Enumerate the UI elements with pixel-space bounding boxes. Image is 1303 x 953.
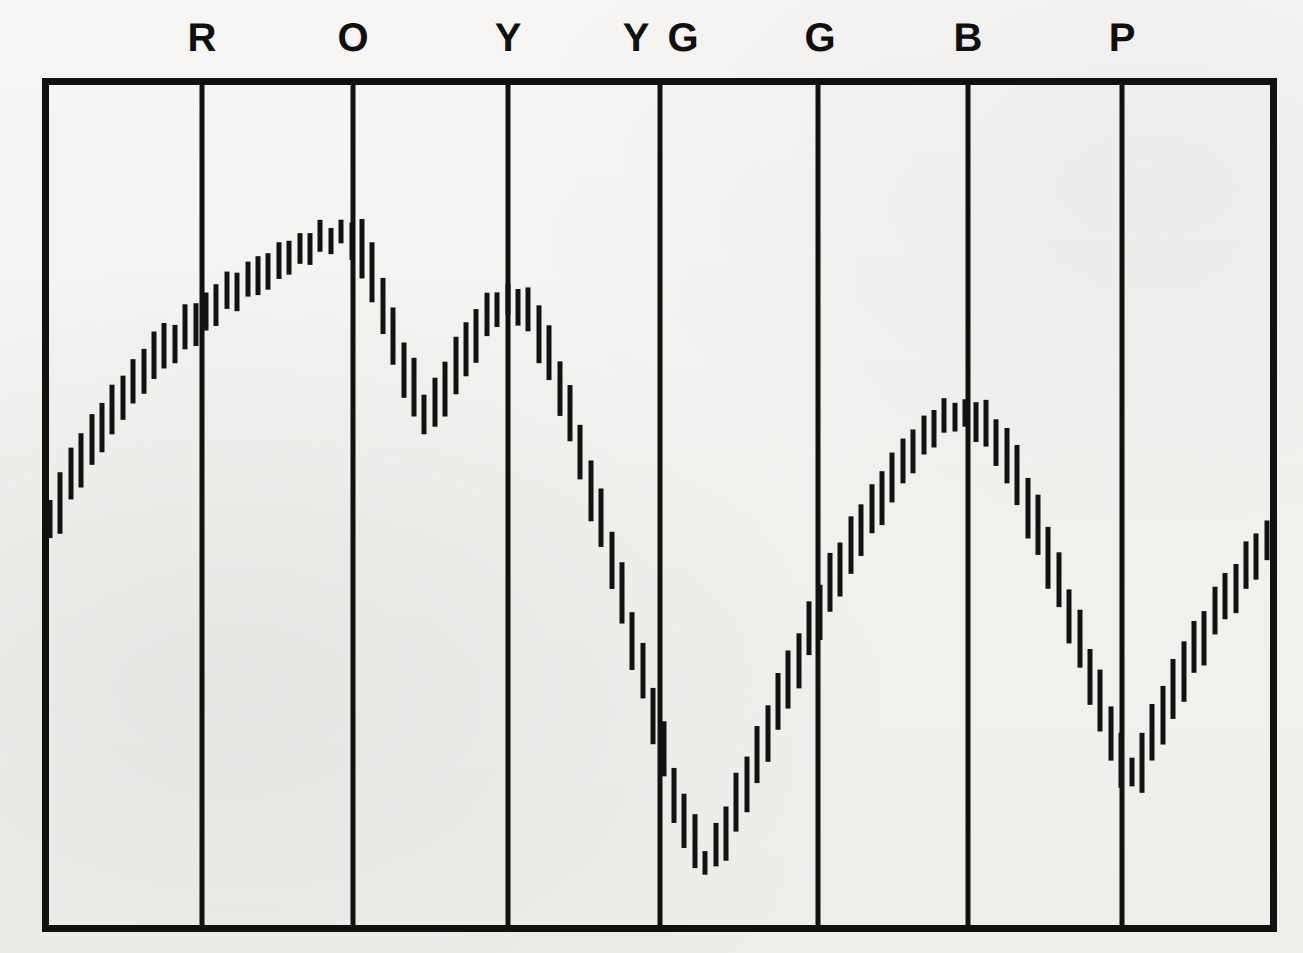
band-divider-group [202,82,1122,929]
figure-page: R O Y Y G G B P [0,0,1303,953]
chart-area: R O Y Y G G B P [0,0,1303,953]
plot-svg [0,0,1303,953]
